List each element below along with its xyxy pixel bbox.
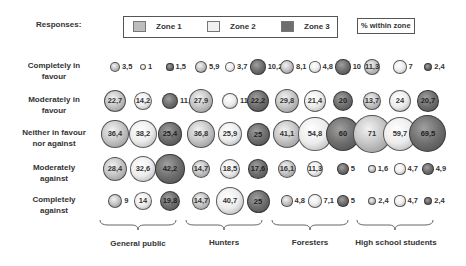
bubble [424, 197, 433, 206]
bubble: 14,7 [192, 192, 210, 210]
bubble-value-label: 60 [339, 129, 347, 138]
unit-label: % within zone [357, 18, 415, 34]
bubble: 21,4 [304, 90, 325, 111]
bubble [308, 194, 321, 207]
bubble: 36,8 [187, 120, 214, 147]
bubble [394, 195, 405, 206]
bubble-value-label: 14,7 [194, 164, 209, 173]
row-label-completely-in-favour: Completely in favour [8, 60, 100, 82]
bubble [368, 165, 375, 172]
bubble-value-label: 4,7 [408, 196, 418, 205]
bubble [250, 59, 265, 74]
bubble: 14,7 [192, 160, 210, 178]
bubble [108, 194, 123, 209]
zone-1-swatch [133, 21, 146, 32]
brace-foresters [270, 218, 350, 232]
bubble: 28,4 [103, 157, 127, 181]
bubble-value-label: 5 [351, 196, 355, 205]
row-label-line: favour [8, 105, 100, 116]
row-label-line: Completely in [8, 60, 100, 71]
row-label-line: favour [8, 71, 100, 82]
bubble: 27,9 [189, 89, 213, 113]
legend-label: Zone 3 [304, 22, 330, 31]
bubble [222, 93, 238, 109]
bubble-value-label: 17,6 [251, 164, 266, 173]
bubble [424, 63, 433, 72]
legend-item-zone-3: Zone 3 [281, 21, 330, 32]
bubble: 24 [389, 90, 412, 113]
bubble-value-label: 13,7 [365, 96, 380, 105]
bubble [394, 163, 405, 174]
row-label-moderately-in-favour: Moderately in favour [8, 94, 100, 116]
bubble-value-label: 14,7 [194, 196, 209, 205]
bubble-value-label: 20,7 [421, 96, 436, 105]
bubble: 14 [134, 192, 152, 210]
row-label-line: against [8, 205, 100, 216]
bubble: 25,4 [158, 122, 181, 145]
bubble: 22,2 [247, 90, 269, 112]
bubble: 13,7 [363, 92, 381, 110]
row-label-line: Completely [8, 194, 100, 205]
bubble-value-label: 69,5 [421, 129, 436, 138]
bubble-value-label: 1,5 [176, 62, 186, 71]
bubble: 16,1 [278, 160, 297, 179]
bubble-value-label: 4,8 [295, 196, 305, 205]
bubble [393, 60, 406, 73]
bubble: 69,5 [409, 115, 446, 152]
bubble [422, 163, 433, 174]
bubble-value-label: 24 [396, 96, 404, 105]
row-label-moderately-against: Moderately against [8, 162, 100, 184]
row-label-line: nor against [8, 138, 100, 149]
row-label-line: Moderately [8, 162, 100, 173]
bubble: 11,3 [307, 161, 323, 177]
bubble-value-label: 4,7 [408, 164, 418, 173]
bubble-value-label: 2,4 [378, 196, 388, 205]
bubble: 11,3 [364, 59, 380, 75]
bubble-value-label: 19,8 [163, 196, 178, 205]
bubble-value-label: 27,9 [194, 96, 209, 105]
bubble-value-label: 2,4 [434, 196, 444, 205]
bubble-value-label: 32,6 [136, 164, 151, 173]
bubble: 25 [247, 190, 270, 213]
bubble-value-label: 25 [254, 197, 262, 206]
group-label-hunters: Hunters [184, 238, 264, 247]
bubble [337, 195, 348, 206]
bubble: 41,1 [273, 120, 302, 149]
legend-label: Zone 1 [156, 22, 182, 31]
row-label-completely-against: Completely against [8, 194, 100, 216]
bubble [162, 93, 178, 109]
bubble-value-label: 25,4 [163, 129, 178, 138]
bubble-value-label: 3,5 [122, 62, 132, 71]
row-label-neither: Neither in favour nor against [8, 127, 100, 149]
bubble-value-label: 8,1 [296, 62, 306, 71]
row-label-line: Moderately in [8, 94, 100, 105]
bubble-value-label: 5 [351, 164, 355, 173]
brace-general-public [98, 218, 178, 232]
bubble-value-label: 7,1 [324, 196, 334, 205]
bubble: 18,5 [220, 159, 240, 179]
bubble-value-label: 1,6 [378, 164, 388, 173]
bubble-value-label: 14,2 [136, 96, 151, 105]
bubble-value-label: 2,4 [434, 62, 444, 71]
group-label-general-public: General public [98, 239, 178, 248]
bubble-value-label: 4,9 [436, 164, 446, 173]
bubble [166, 63, 173, 70]
bubble-value-label: 59,7 [393, 129, 408, 138]
bubble-value-label: 4,8 [323, 62, 333, 71]
bubble [140, 64, 146, 70]
bubble-value-label: 29,8 [280, 96, 295, 105]
bubble [281, 195, 292, 206]
bubble-value-label: 28,4 [108, 164, 123, 173]
bubble [195, 61, 207, 73]
bubble-value-label: 9 [124, 196, 128, 205]
bubble: 29,8 [275, 89, 300, 114]
bubble-value-label: 42,2 [163, 164, 178, 173]
brace-hunters [184, 218, 264, 232]
bubble [368, 197, 377, 206]
bubble: 19,8 [160, 191, 181, 212]
bubble [335, 59, 350, 74]
bubble-value-label: 36,8 [194, 129, 209, 138]
bubble-value-label: 41,1 [280, 129, 295, 138]
bubble: 20,7 [417, 90, 438, 111]
bubble: 38,2 [129, 120, 157, 148]
